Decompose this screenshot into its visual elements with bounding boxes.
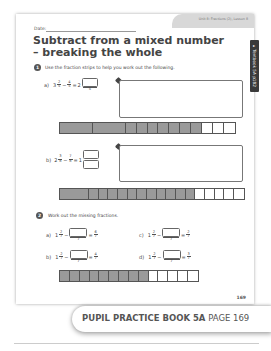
strip-cell-shaded [186, 189, 196, 199]
question-2-number: 2 [36, 212, 43, 219]
page-title: Subtract from a mixed number – breaking … [33, 35, 233, 59]
fraction: 27 [152, 231, 156, 240]
strip-cell-shaded [157, 189, 167, 199]
strip-cell-shaded [128, 189, 138, 199]
strip-cell-empty [158, 271, 168, 281]
fraction: 37 [187, 253, 191, 262]
equation-2c: c)127−7=27 [139, 228, 190, 242]
fraction-strip-2 [59, 270, 199, 282]
strip-cell-shaded [137, 189, 147, 199]
header-band: Unit 8: Fractions (2), Lesson 8 [172, 14, 254, 28]
book-title: PUPIL PRACTICE BOOK 5A [82, 313, 205, 323]
page-reference-banner: PUPIL PRACTICE BOOK 5A PAGE 169 [72, 306, 271, 332]
strip-cell-empty [202, 123, 213, 133]
answer-denominator-box[interactable] [83, 160, 99, 169]
question-1-instruction: Use the fraction strips to help you work… [45, 65, 175, 70]
strip-cell-empty [215, 189, 225, 199]
fraction: 38 [58, 155, 62, 164]
answer-box[interactable] [163, 250, 181, 259]
answer-box[interactable] [69, 228, 87, 237]
strip-cell-shaded [147, 189, 157, 199]
answer-box[interactable] [82, 78, 98, 87]
strip-cell-empty [168, 271, 178, 281]
strip-cell-shaded [89, 189, 99, 199]
strip-cell-shaded [109, 271, 119, 281]
strip-whole [60, 189, 89, 199]
strip-cell-shaded [80, 271, 90, 281]
part-label: c) [139, 232, 144, 238]
textbook-tab: ▸ Textbook 5A p182 [250, 40, 259, 92]
answer-fraction: 7 [69, 228, 87, 242]
fraction: 25 [57, 81, 61, 90]
working-box-1b[interactable] [119, 145, 243, 182]
fraction: 47 [94, 253, 98, 262]
strip-cell-shaded [108, 189, 118, 199]
answer-fraction [83, 150, 99, 169]
strip-cell-shaded [176, 189, 186, 199]
strip-cell-empty [149, 271, 159, 281]
fraction: 27 [59, 231, 63, 240]
strip-cell-shaded [169, 123, 180, 133]
equation-1b: b) 2 38 − 78 = 1 [46, 150, 99, 169]
strip-whole [60, 123, 93, 133]
result-whole: 1 [79, 157, 82, 163]
equation-2b: b)127−7=47 [46, 250, 98, 264]
strip-cell-empty [188, 271, 198, 281]
question-2-instruction: Work out the missing fractions. [48, 213, 118, 218]
date-line [46, 31, 136, 32]
unit-lesson-label: Unit 8: Fractions (2), Lesson 8 [199, 17, 248, 21]
fraction: 67 [94, 231, 98, 240]
whole-number: 3 [53, 82, 56, 88]
part-label: d) [139, 254, 144, 260]
date-label: Date: [34, 26, 46, 31]
fraction-strip-1b [59, 188, 245, 200]
fraction: 78 [69, 155, 73, 164]
working-box-1a[interactable] [119, 80, 243, 118]
banner-page: PAGE 169 [208, 313, 249, 323]
strip-cell-shaded [119, 271, 129, 281]
result-whole: 2 [78, 82, 81, 88]
strip-cell-shaded [126, 123, 137, 133]
textbook-tab-label: ▸ Textbook 5A p182 [252, 43, 257, 87]
strip-cell-shaded [129, 271, 139, 281]
answer-fraction: 7 [162, 228, 180, 242]
part-label: a) [44, 82, 49, 88]
strip-cell-shaded [70, 271, 80, 281]
strip-cell-shaded [137, 123, 148, 133]
answer-box[interactable] [162, 228, 180, 237]
fraction-strip-1a [59, 122, 236, 134]
answer-box[interactable] [70, 250, 88, 259]
strip-cell-empty [234, 189, 244, 199]
strip-cell-shaded [191, 123, 202, 133]
strip-cell-shaded [99, 189, 109, 199]
fraction: 27 [186, 231, 190, 240]
part-label: b) [46, 157, 51, 163]
strip-cell-empty [213, 123, 224, 133]
answer-fraction: 7 [163, 250, 181, 264]
fraction: 27 [59, 253, 63, 262]
workbook-page: Unit 8: Fractions (2), Lesson 8 Date: Su… [16, 14, 254, 304]
whole-number: 1 [55, 254, 58, 260]
strip-cell-empty [205, 189, 215, 199]
question-1-number: 1 [34, 64, 41, 71]
equation-2a: a)127−7=67 [46, 228, 98, 242]
strip-cell-shaded [180, 123, 191, 133]
strip-whole [93, 123, 126, 133]
fraction: 27 [152, 253, 156, 262]
strip-cell-shaded [90, 271, 100, 281]
equation-1a: a) 3 25 − 45 = 2 5 [44, 78, 98, 92]
part-label: b) [46, 254, 51, 260]
whole-number: 1 [55, 232, 58, 238]
whole-number: 2 [54, 157, 57, 163]
strip-cell-empty [178, 271, 188, 281]
fraction: 45 [67, 81, 71, 90]
answer-fraction: 7 [70, 250, 88, 264]
answer-fraction: 5 [82, 78, 98, 92]
page-number: 169 [237, 295, 246, 300]
answer-numerator-box[interactable] [83, 150, 99, 159]
divider [14, 343, 259, 344]
strip-cell-empty [195, 189, 205, 199]
strip-cell-empty [224, 123, 235, 133]
strip-cell-shaded [60, 271, 70, 281]
whole-number: 1 [148, 254, 151, 260]
